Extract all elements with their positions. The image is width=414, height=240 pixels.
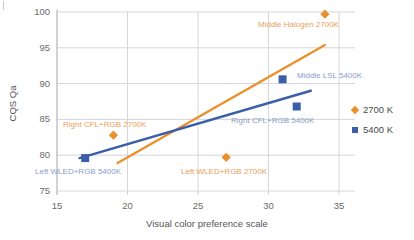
x-tick-35: 35 — [324, 200, 354, 211]
annotation-4: Left WLED+RGB 5400K — [35, 167, 121, 176]
legend-item-5400k: 5400 K — [352, 124, 393, 135]
y-tick-85: 85 — [24, 113, 50, 124]
legend-label-2700k: 2700 K — [363, 104, 393, 115]
annotation-1: Middle LSL 5400K — [297, 71, 362, 80]
y-tick-90: 90 — [24, 78, 50, 89]
x-tick-20: 20 — [113, 200, 143, 211]
y-axis-title: CQS Qa — [7, 74, 18, 134]
y-tick-100: 100 — [24, 6, 50, 17]
x-tick-25: 25 — [183, 200, 213, 211]
y-tick-95: 95 — [24, 42, 50, 53]
y-tick-75: 75 — [24, 185, 50, 196]
x-tick-30: 30 — [254, 200, 284, 211]
data-markers — [81, 10, 329, 163]
annotation-0: Middle Halogen 2700K — [258, 20, 339, 29]
annotation-5: Left WLED+RGB 2700K — [181, 167, 267, 176]
chart-legend: 2700 K 5400 K — [352, 104, 393, 135]
annotation-3: Right CFL+RGB 2700K — [63, 120, 146, 129]
diamond-marker-icon — [351, 105, 359, 113]
square-marker-icon — [352, 127, 358, 133]
legend-label-5400k: 5400 K — [363, 124, 393, 135]
annotation-2: Right CFL+RGB 5400K — [231, 116, 314, 125]
y-tick-80: 80 — [24, 149, 50, 160]
chart-container: 7580859095100 1520253035 Middle Halogen … — [0, 0, 414, 240]
trendlines — [80, 45, 325, 163]
x-axis-title: Visual color preference scale — [0, 218, 414, 229]
legend-item-2700k: 2700 K — [352, 104, 393, 115]
x-tick-15: 15 — [42, 200, 72, 211]
